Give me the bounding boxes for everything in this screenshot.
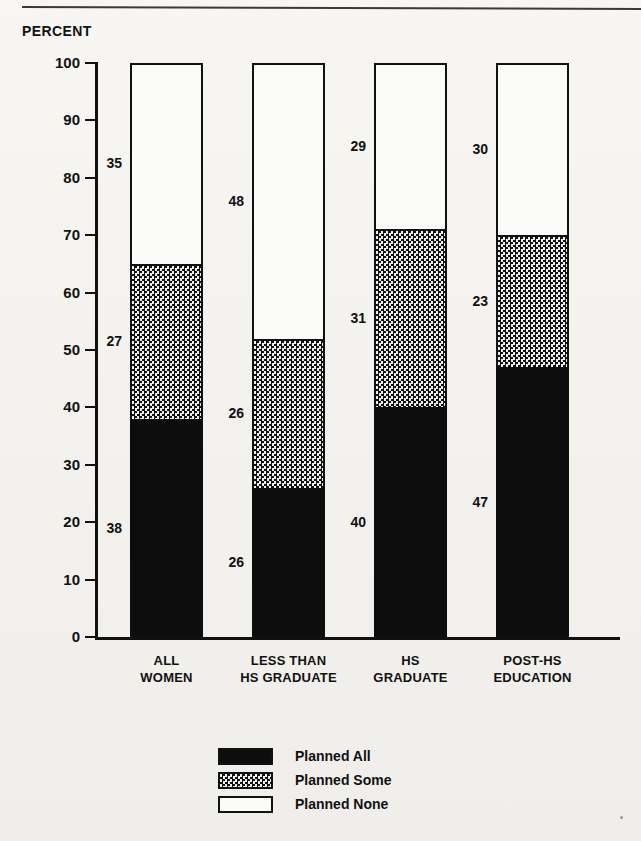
y-axis-tick-label: 40: [30, 399, 80, 414]
bar-value-label: 40: [326, 514, 366, 530]
legend-swatch-planned-none: [218, 796, 273, 813]
bar-segment: [252, 63, 325, 339]
legend-item-planned-none: Planned None: [218, 792, 391, 816]
bar-value-label: 48: [204, 193, 244, 209]
bar-value-label: 47: [448, 494, 488, 510]
y-axis-tick: [85, 119, 96, 121]
y-axis-tick: [85, 292, 96, 294]
bar-value-label: 30: [448, 141, 488, 157]
bar-value-label: 27: [82, 333, 122, 349]
bar-value-label: 35: [82, 155, 122, 171]
legend-label-planned-some: Planned Some: [295, 772, 391, 788]
y-axis-tick-label: 70: [30, 227, 80, 242]
bar-segment: [496, 63, 569, 235]
bar-segment: [374, 229, 447, 407]
category-label-line: POST-HS: [458, 652, 608, 669]
chart-legend: Planned All Planned Some Planned None: [218, 744, 391, 816]
category-label-line: EDUCATION: [458, 669, 608, 686]
y-axis-tick: [85, 406, 96, 408]
legend-swatch-planned-all: [218, 748, 273, 765]
y-axis-tick-label: 30: [30, 457, 80, 472]
y-axis-tick-label: 100: [30, 55, 80, 70]
y-axis-tick: [85, 464, 96, 466]
bar-segment: [130, 63, 203, 264]
y-axis-tick-label: 90: [30, 112, 80, 127]
legend-item-planned-all: Planned All: [218, 744, 391, 768]
y-axis-tick-label: 0: [30, 629, 80, 644]
y-axis-tick-label: 20: [30, 514, 80, 529]
x-axis-category-label: POST-HSEDUCATION: [458, 652, 608, 686]
y-axis-tick: [85, 579, 96, 581]
y-axis-tick: [85, 177, 96, 179]
legend-item-planned-some: Planned Some: [218, 768, 391, 792]
legend-label-planned-none: Planned None: [295, 796, 388, 812]
bar-segment: [496, 367, 569, 637]
bar-segment: [252, 488, 325, 637]
y-axis-tick: [85, 234, 96, 236]
bar-segment: [374, 63, 447, 229]
x-axis-baseline: [95, 637, 620, 640]
y-axis-tick-label: 10: [30, 572, 80, 587]
chart-plot-area: 0102030405060708090100 38273526264840312…: [0, 0, 641, 841]
y-axis-tick: [85, 636, 96, 638]
bar-value-label: 31: [326, 310, 366, 326]
scan-speck: [620, 816, 623, 819]
bar-value-label: 26: [204, 554, 244, 570]
bar-value-label: 38: [82, 520, 122, 536]
bar-value-label: 29: [326, 138, 366, 154]
y-axis-tick: [85, 62, 96, 64]
y-axis-tick-label: 60: [30, 285, 80, 300]
bar-segment: [130, 264, 203, 419]
legend-label-planned-all: Planned All: [295, 748, 371, 764]
legend-swatch-planned-some: [218, 772, 273, 789]
bar-segment: [252, 339, 325, 488]
bar-segment: [130, 419, 203, 637]
bar-segment: [374, 407, 447, 637]
bar-segment: [496, 235, 569, 367]
y-axis-tick-label: 80: [30, 170, 80, 185]
bar-value-label: 26: [204, 405, 244, 421]
bar-value-label: 23: [448, 293, 488, 309]
y-axis-tick-label: 50: [30, 342, 80, 357]
